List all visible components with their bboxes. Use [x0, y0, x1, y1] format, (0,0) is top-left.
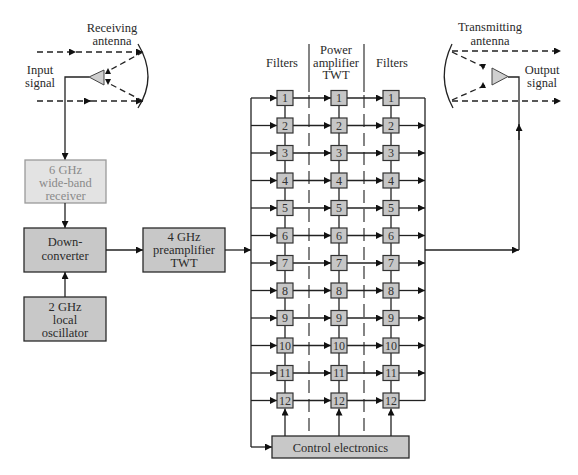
channel-number: 8 — [388, 284, 394, 298]
channel-number: 10 — [385, 339, 397, 353]
channel-row: 444 — [251, 173, 425, 201]
channel-number: 9 — [282, 311, 288, 325]
receiver-label-line3: receiver — [45, 189, 86, 203]
preamplifier-block: 4 GHz preamplifier TWT — [143, 228, 225, 272]
channel-number: 11 — [385, 366, 397, 380]
channel-number: 3 — [336, 146, 342, 160]
transmitting-dish-reflector — [444, 44, 453, 108]
channel-number: 1 — [336, 91, 342, 105]
channel-row: 222 — [251, 118, 425, 146]
channel-number: 5 — [388, 201, 394, 215]
channel-number: 10 — [333, 339, 345, 353]
channel-row: 777 — [251, 256, 425, 284]
local-oscillator-block: 2 GHz local oscillator — [24, 297, 106, 341]
receiving-feed-horn-icon — [89, 70, 104, 85]
channel-row: 333 — [251, 146, 425, 174]
channel-row: 111 — [251, 91, 425, 119]
output-filters-header: Filters — [376, 56, 408, 70]
input-filters-header: Filters — [266, 56, 298, 70]
arrowhead-down-icon — [480, 64, 486, 70]
channel-number: 4 — [336, 174, 342, 188]
downconverter-block: Down- converter — [24, 228, 106, 272]
channel-number: 11 — [333, 366, 345, 380]
channel-row: 111111 — [251, 366, 425, 394]
channel-number: 9 — [336, 311, 342, 325]
arrowhead-up-icon — [105, 68, 111, 74]
channel-number: 12 — [333, 394, 345, 408]
input-signal-label-line1: Input — [27, 63, 54, 77]
channel-number: 6 — [282, 229, 288, 243]
channel-number: 2 — [336, 119, 342, 133]
channel-number: 2 — [282, 119, 288, 133]
channel-number: 8 — [336, 284, 342, 298]
reflected-wave-bottom — [110, 84, 143, 101]
channel-number: 4 — [282, 174, 288, 188]
transmitting-antenna-label-line1: Transmitting — [458, 20, 523, 34]
channel-number: 7 — [388, 256, 394, 270]
preamp-label-line2: preamplifier — [153, 243, 216, 257]
channel-number: 9 — [388, 311, 394, 325]
receiver-label-line2: wide-band — [39, 176, 93, 190]
transmitting-antenna-label-line2: antenna — [471, 34, 510, 48]
channel-number: 3 — [282, 146, 288, 160]
column-headers: Filters Power amplifier TWT Filters — [266, 43, 408, 82]
channel-number: 2 — [388, 119, 394, 133]
satellite-transponder-diagram: Receiving antenna Input signal 6 GHz wid… — [0, 0, 578, 475]
channel-number: 10 — [279, 339, 291, 353]
channel-row: 101010 — [251, 338, 425, 366]
channel-grid: 1112223334445556667778889991010101111111… — [251, 91, 425, 409]
receiving-antenna-label-line2: antenna — [93, 34, 132, 48]
input-signal-label-line2: signal — [25, 76, 55, 90]
channel-number: 1 — [388, 91, 394, 105]
preamp-label-line3: TWT — [170, 256, 197, 270]
wide-band-receiver-block: 6 GHz wide-band receiver — [25, 160, 106, 203]
channel-number: 6 — [388, 229, 394, 243]
channel-number: 3 — [388, 146, 394, 160]
preamp-label-line1: 4 GHz — [168, 230, 201, 244]
channel-number: 11 — [279, 366, 291, 380]
channel-row: 555 — [251, 201, 425, 229]
input-signal-wire — [65, 77, 89, 160]
transmitting-feed-horn-icon — [492, 68, 508, 85]
channel-number: 4 — [388, 174, 394, 188]
reflected-wave-top — [110, 52, 143, 70]
control-electronics-block: Control electronics — [272, 436, 409, 458]
oscillator-label-line2: local — [53, 313, 78, 327]
downconverter-label-line1: Down- — [48, 235, 83, 249]
channel-number: 7 — [336, 256, 342, 270]
channel-number: 12 — [279, 394, 291, 408]
output-signal-wire — [508, 77, 519, 250]
arrowhead-down-icon — [105, 79, 111, 85]
channel-row: 666 — [251, 228, 425, 256]
output-signal-label-line2: signal — [527, 76, 557, 90]
receiving-antenna-label-line1: Receiving — [87, 21, 138, 35]
channel-number: 5 — [336, 201, 342, 215]
oscillator-label-line3: oscillator — [42, 326, 89, 340]
channel-number: 7 — [282, 256, 288, 270]
receiver-label-line1: 6 GHz — [49, 163, 82, 177]
receiving-antenna: Receiving antenna — [37, 21, 148, 108]
power-amplifier-header-line3: TWT — [322, 68, 349, 82]
downconverter-label-line2: converter — [41, 249, 89, 263]
control-electronics-label: Control electronics — [293, 441, 389, 455]
channel-row: 888 — [251, 283, 425, 311]
channel-number: 6 — [336, 229, 342, 243]
channel-row: 121212 — [251, 393, 425, 408]
channel-number: 1 — [282, 91, 288, 105]
channel-row: 999 — [251, 311, 425, 339]
output-signal-label-line1: Output — [525, 63, 560, 77]
arrowhead-up-icon — [480, 82, 486, 88]
channel-number: 12 — [385, 394, 397, 408]
channel-number: 8 — [282, 284, 288, 298]
oscillator-label-line1: 2 GHz — [49, 300, 82, 314]
channel-number: 5 — [282, 201, 288, 215]
